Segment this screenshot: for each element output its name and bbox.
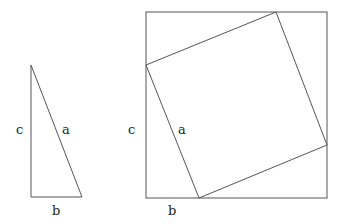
triangle-label-a: a [62,122,70,137]
right-triangle: c a b [16,65,82,218]
inner-tilted-square [146,12,327,198]
triangle-label-b: b [52,203,60,218]
square-label-a: a [178,122,186,137]
square-label-b: b [168,203,176,218]
square-construction: c a b [128,12,327,218]
triangle-hypotenuse-a [31,65,82,197]
outer-square [146,12,327,198]
square-label-c: c [128,122,135,137]
triangle-label-c: c [16,122,23,137]
pythagoras-diagram: c a b c a b [0,0,345,224]
